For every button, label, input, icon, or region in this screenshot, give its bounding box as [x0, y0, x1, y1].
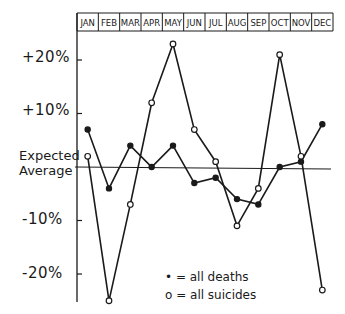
- suicides-point-aug: [234, 223, 240, 229]
- deaths-point-jun: [192, 180, 197, 185]
- deaths-point-jul: [213, 175, 218, 180]
- deaths-point-jan: [85, 127, 90, 132]
- deaths-point-dec: [320, 122, 325, 127]
- y-label-minus-10: -10%: [22, 210, 63, 228]
- deaths-point-nov: [298, 159, 303, 164]
- expected-label-line1: Expected: [19, 148, 80, 163]
- deaths-point-may: [170, 143, 175, 148]
- series-line-all-suicides: [88, 44, 323, 301]
- suicides-point-jan: [85, 154, 91, 160]
- month-label-aug: AUG: [228, 18, 247, 28]
- month-label-sep: SEP: [250, 18, 266, 28]
- y-label-plus-20: +20%: [22, 48, 70, 66]
- suicides-point-jul: [213, 159, 219, 165]
- suicides-point-nov: [298, 154, 304, 160]
- month-label-dec: DEC: [313, 18, 331, 28]
- month-label-feb: FEB: [101, 18, 117, 28]
- deaths-point-mar: [128, 143, 133, 148]
- deaths-point-aug: [234, 197, 239, 202]
- legend-suicides-text: o = all suicides: [165, 288, 256, 302]
- month-label-nov: NOV: [292, 18, 311, 28]
- deaths-point-feb: [106, 186, 111, 191]
- deaths-point-oct: [277, 164, 282, 169]
- expected-label-line2: Average: [19, 163, 80, 178]
- deaths-point-apr: [149, 164, 154, 169]
- suicides-point-dec: [320, 287, 326, 293]
- month-label-mar: MAR: [121, 18, 140, 28]
- suicides-point-sep: [256, 186, 262, 192]
- suicides-point-feb: [106, 298, 112, 304]
- legend-deaths: • = all deaths: [165, 270, 249, 284]
- month-label-apr: APR: [143, 18, 160, 28]
- suicides-point-apr: [149, 100, 155, 106]
- month-label-jun: JUN: [186, 18, 202, 28]
- month-label-oct: OCT: [271, 18, 290, 28]
- month-label-jul: JUL: [208, 18, 223, 28]
- suicides-point-jun: [192, 127, 198, 133]
- suicides-point-may: [170, 41, 176, 47]
- expected-average-line: [75, 167, 331, 169]
- y-label-minus-20: -20%: [22, 264, 63, 282]
- legend-deaths-text: • = all deaths: [165, 270, 249, 284]
- expected-average-label: Expected Average: [19, 148, 80, 178]
- series-line-all-deaths: [88, 124, 323, 204]
- legend-suicides: o = all suicides: [165, 288, 256, 302]
- suicides-point-mar: [128, 202, 134, 208]
- suicides-point-oct: [277, 52, 283, 58]
- month-label-jan: JAN: [79, 18, 95, 28]
- y-label-plus-10: +10%: [22, 101, 70, 119]
- month-label-may: MAY: [164, 18, 182, 28]
- deaths-point-sep: [256, 202, 261, 207]
